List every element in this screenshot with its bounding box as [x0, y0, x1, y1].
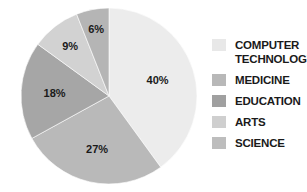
legend-swatch: [212, 137, 226, 149]
legend-label: SCIENCE: [235, 136, 285, 150]
legend-item-computer-technology: COMPUTER TECHNOLOGY: [212, 38, 307, 66]
legend-label: COMPUTER TECHNOLOGY: [235, 38, 307, 66]
legend-label: EDUCATION: [235, 94, 301, 108]
legend-item-medicine: MEDICINE: [212, 73, 307, 87]
legend-swatch: [212, 74, 226, 86]
slice-value-label: 18%: [44, 87, 66, 99]
legend-label: ARTS: [235, 115, 266, 129]
legend-item-science: SCIENCE: [212, 136, 307, 150]
legend-swatch: [212, 95, 226, 107]
legend-item-arts: ARTS: [212, 115, 307, 129]
slice-value-label: 27%: [86, 143, 108, 155]
slice-value-label: 9%: [62, 40, 78, 52]
legend-swatch: [212, 116, 226, 128]
pie-chart: 40%27%18%9%6%: [0, 0, 220, 192]
legend-label: MEDICINE: [235, 73, 290, 87]
slice-value-label: 40%: [147, 74, 169, 86]
legend-item-education: EDUCATION: [212, 94, 307, 108]
slice-value-label: 6%: [88, 23, 104, 35]
legend: COMPUTER TECHNOLOGY MEDICINE EDUCATION A…: [212, 38, 307, 157]
legend-swatch: [212, 39, 226, 51]
